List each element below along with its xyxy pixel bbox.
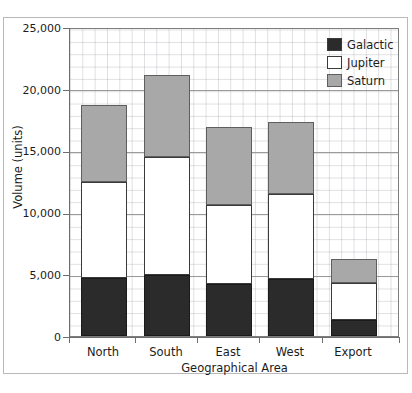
legend-item-galactic[interactable]: Galactic [327,36,407,53]
legend-swatch-jupiter [327,56,342,69]
y-axis-title: Volume (units) [11,97,25,237]
x-tick-2 [197,337,198,343]
bar-segment-south-galactic[interactable] [144,275,190,336]
x-tick-label-south: South [131,345,201,359]
bar-segment-west-galactic[interactable] [268,279,314,336]
y-tick-label-25000: 25,000 [3,23,61,34]
chart-figure: 25,000 20,000 15,000 10,000 5,000 0 [0,0,412,393]
legend-label-galactic: Galactic [347,38,394,52]
legend-label-jupiter: Jupiter [347,56,385,70]
bar-segment-east-galactic[interactable] [206,284,252,336]
bar-segment-north-saturn[interactable] [81,105,127,182]
y-tick-label-20000: 20,000 [3,85,61,96]
x-tick-0 [69,337,70,343]
bar-segment-north-jupiter[interactable] [81,182,127,278]
x-tick-label-export: Export [318,345,388,359]
legend-swatch-galactic [327,38,342,51]
x-tick-5 [399,337,400,343]
chart-legend: Galactic Jupiter Saturn [327,36,407,90]
bar-segment-east-saturn[interactable] [206,127,252,205]
legend-item-saturn[interactable]: Saturn [327,72,407,89]
x-tick-1 [135,337,136,343]
bar-segment-north-galactic[interactable] [81,278,127,336]
legend-item-jupiter[interactable]: Jupiter [327,54,407,71]
x-axis-title: Geographical Area [69,361,400,375]
x-tick-3 [259,337,260,343]
x-tick-label-east: East [193,345,263,359]
legend-swatch-saturn [327,74,342,87]
bar-segment-export-galactic[interactable] [331,320,377,336]
x-axis-line [69,337,400,338]
bar-segment-west-saturn[interactable] [268,122,314,194]
bar-segment-west-jupiter[interactable] [268,194,314,279]
x-tick-4 [322,337,323,343]
y-tick-label-0: 0 [3,332,61,343]
bar-segment-export-jupiter[interactable] [331,283,377,320]
bar-segment-south-jupiter[interactable] [144,157,190,276]
x-tick-label-west: West [255,345,325,359]
x-tick-label-north: North [68,345,138,359]
legend-label-saturn: Saturn [347,74,385,88]
y-axis-line [69,28,70,338]
y-tick-label-5000: 5,000 [3,270,61,281]
bar-segment-south-saturn[interactable] [144,75,190,157]
y-axis-tick-labels: 25,000 20,000 15,000 10,000 5,000 0 [0,0,61,393]
bar-segment-export-saturn[interactable] [331,259,377,283]
gridline-20000 [70,90,398,91]
bar-segment-east-jupiter[interactable] [206,205,252,284]
